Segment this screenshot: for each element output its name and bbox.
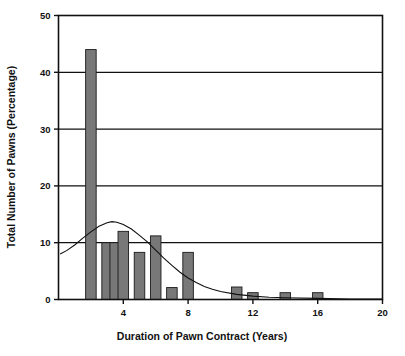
bar-2yr xyxy=(86,50,97,300)
bar-4yr xyxy=(118,231,129,299)
y-tick-label-20: 20 xyxy=(40,180,51,191)
x-tick-label-16: 16 xyxy=(312,307,323,318)
x-axis-title: Duration of Pawn Contract (Years) xyxy=(117,330,287,342)
bar-14yr xyxy=(280,293,291,300)
y-tick-label-10: 10 xyxy=(40,237,51,248)
chart-background xyxy=(0,0,405,356)
y-tick-label-30: 30 xyxy=(40,124,51,135)
x-tick-label-4: 4 xyxy=(121,307,127,318)
y-tick-label-40: 40 xyxy=(40,67,51,78)
x-tick-label-8: 8 xyxy=(185,307,190,318)
pawn-duration-histogram: 01020304050 48121620 Duration of Pawn Co… xyxy=(0,0,405,356)
bar-6yr xyxy=(150,236,161,300)
y-tick-label-0: 0 xyxy=(45,294,50,305)
y-axis-title: Total Number of Pawns (Percentage) xyxy=(5,66,17,248)
chart-figure: 01020304050 48121620 Duration of Pawn Co… xyxy=(0,0,405,356)
x-tick-label-12: 12 xyxy=(248,307,259,318)
y-tick-label-50: 50 xyxy=(40,10,51,21)
x-tick-label-20: 20 xyxy=(377,307,388,318)
bar-5yr xyxy=(134,252,145,299)
bar-7yr xyxy=(167,288,178,300)
